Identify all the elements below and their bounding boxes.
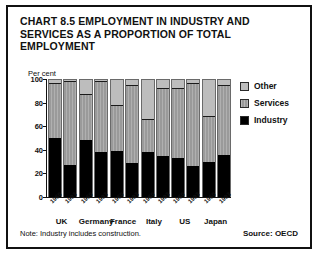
y-tick-20: 20 [35, 169, 43, 178]
bar-group-us: 19601993US [171, 79, 198, 197]
segment-industry [94, 152, 108, 197]
y-tick-100: 100 [30, 75, 43, 84]
segment-other [63, 79, 77, 81]
legend-item-industry[interactable]: Industry [240, 115, 289, 125]
segment-services [141, 119, 155, 152]
legend-item-services[interactable]: Services [240, 98, 289, 108]
y-axis-line [46, 79, 47, 197]
segment-industry [79, 140, 93, 197]
bar-group-france: 19601993France [110, 79, 137, 197]
segment-services [186, 83, 200, 167]
segment-services [125, 85, 139, 163]
bar-us-1960[interactable] [171, 79, 185, 197]
segment-other [156, 79, 170, 88]
chart-title: CHART 8.5 EMPLOYMENT IN INDUSTRY AND SER… [20, 15, 292, 53]
segment-services [48, 83, 62, 138]
bar-group-uk: 19601993UK [48, 79, 75, 197]
y-tick-60: 60 [35, 122, 43, 131]
bar-group-japan: 19601993Japan [202, 79, 229, 197]
x-tick-country-germany: Germany [79, 217, 106, 226]
chart-note: Note: Industry includes construction. [20, 229, 141, 238]
segment-other [141, 79, 155, 119]
bar-us-1993[interactable] [186, 79, 200, 197]
bar-germany-1960[interactable] [79, 79, 93, 197]
y-tick-mark-60 [43, 126, 46, 127]
bar-group-italy: 19601993Italy [141, 79, 168, 197]
segment-industry [110, 151, 124, 197]
legend-label-industry: Industry [254, 115, 288, 125]
chart-frame: CHART 8.5 EMPLOYMENT IN INDUSTRY AND SER… [6, 5, 312, 249]
bar-japan-1960[interactable] [202, 79, 216, 197]
segment-other [48, 79, 62, 83]
legend-item-other[interactable]: Other [240, 81, 289, 91]
bar-italy-1993[interactable] [156, 79, 170, 197]
bar-italy-1960[interactable] [141, 79, 155, 197]
segment-other [94, 79, 108, 81]
bar-uk-1960[interactable] [48, 79, 62, 197]
x-tick-country-france: France [110, 217, 137, 226]
segment-other [217, 79, 231, 85]
segment-other [110, 79, 124, 105]
y-tick-mark-40 [43, 150, 46, 151]
segment-industry [141, 152, 155, 197]
plot-area: 020406080100 19601993UK19601993Germany19… [46, 79, 231, 197]
x-tick-country-italy: Italy [141, 217, 168, 226]
legend-label-other: Other [254, 81, 277, 91]
segment-services [202, 116, 216, 162]
segment-other [79, 79, 93, 94]
segment-industry [171, 158, 185, 197]
segment-other [171, 79, 185, 88]
bar-japan-1993[interactable] [217, 79, 231, 197]
segment-other [202, 79, 216, 116]
segment-services [156, 88, 170, 155]
legend-swatch-services [240, 99, 249, 108]
legend-swatch-other [240, 82, 249, 91]
legend-swatch-industry [240, 116, 249, 125]
y-tick-80: 80 [35, 98, 43, 107]
segment-services [94, 81, 108, 152]
segment-other [186, 79, 200, 83]
x-tick-country-us: US [171, 217, 198, 226]
bar-uk-1993[interactable] [63, 79, 77, 197]
segment-services [63, 81, 77, 165]
y-tick-40: 40 [35, 145, 43, 154]
segment-industry [217, 155, 231, 197]
y-tick-mark-100 [43, 79, 46, 80]
x-tick-country-japan: Japan [202, 217, 229, 226]
chart-source: Source: OECD [243, 229, 298, 238]
segment-industry [48, 138, 62, 197]
y-tick-mark-20 [43, 173, 46, 174]
segment-services [171, 88, 185, 158]
y-tick-mark-0 [43, 197, 46, 198]
y-tick-mark-80 [43, 103, 46, 104]
bar-france-1993[interactable] [125, 79, 139, 197]
segment-services [110, 105, 124, 151]
segment-other [125, 79, 139, 85]
bar-group-germany: 19601993Germany [79, 79, 106, 197]
bar-germany-1993[interactable] [94, 79, 108, 197]
segment-services [79, 94, 93, 140]
bar-france-1960[interactable] [110, 79, 124, 197]
x-tick-country-uk: UK [48, 217, 75, 226]
legend-label-services: Services [254, 98, 289, 108]
segment-services [217, 85, 231, 155]
legend: OtherServicesIndustry [240, 81, 289, 132]
